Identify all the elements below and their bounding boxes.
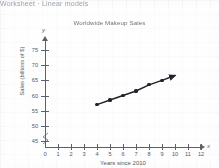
chart-area: Worldwide Makeup Sales y x 0 Sales (bill… [6,8,213,163]
data-point [121,94,124,97]
data-point [147,83,150,86]
data-point [134,89,137,92]
top-cropped-text: Worksheet · Linear models [0,0,140,7]
data-point [95,103,98,106]
data-point [160,79,163,82]
chart-screenshot: Worksheet · Linear models Worldwide Make… [0,0,219,168]
data-point [108,98,111,101]
data-point-layer [6,8,213,163]
